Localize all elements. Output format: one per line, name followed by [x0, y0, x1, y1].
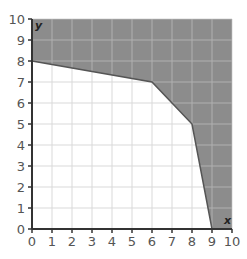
y-axis-label: y	[35, 19, 43, 32]
x-tick-label: 8	[188, 234, 196, 249]
y-tick-label: 3	[17, 159, 25, 174]
y-tick-label: 0	[17, 222, 25, 237]
y-tick-labels: 012345678910	[8, 12, 25, 237]
y-tick-label: 8	[17, 54, 25, 69]
y-tick-label: 7	[17, 75, 25, 90]
y-tick-label: 6	[17, 96, 25, 111]
x-tick-label: 1	[48, 234, 56, 249]
y-tick-label: 4	[17, 138, 25, 153]
x-tick-label: 7	[168, 234, 176, 249]
x-tick-label: 9	[208, 234, 216, 249]
y-tick-label: 10	[8, 12, 25, 27]
x-tick-label: 4	[108, 234, 116, 249]
x-tick-labels: 012345678910	[28, 234, 240, 249]
x-tick-label: 10	[224, 234, 241, 249]
y-tick-label: 9	[17, 33, 25, 48]
x-tick-label: 5	[128, 234, 136, 249]
x-axis-label: x	[223, 214, 232, 227]
x-tick-label: 6	[148, 234, 156, 249]
x-tick-label: 0	[28, 234, 36, 249]
x-tick-label: 2	[68, 234, 76, 249]
y-tick-label: 5	[17, 117, 25, 132]
x-tick-label: 3	[88, 234, 96, 249]
y-tick-label: 1	[17, 201, 25, 216]
chart: 012345678910 012345678910 x y	[0, 0, 247, 259]
y-tick-label: 2	[17, 180, 25, 195]
